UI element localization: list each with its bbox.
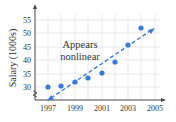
point-2000 — [85, 75, 90, 80]
annotation: Appears nonlinear — [60, 39, 100, 62]
x-tick-2005: 2005 — [147, 104, 163, 113]
y-tick-45: 45 — [23, 43, 31, 52]
y-axis-title: Salary (1000s) — [7, 29, 19, 88]
y-tick-50: 50 — [23, 29, 31, 38]
point-1998 — [58, 83, 63, 88]
point-2003 — [125, 42, 130, 47]
x-tick-1999: 1999 — [67, 104, 83, 113]
y-tick-55: 55 — [23, 16, 31, 25]
y-tick-35: 35 — [23, 70, 31, 79]
y-axis-arrow-icon — [33, 4, 37, 9]
point-2002 — [112, 59, 117, 64]
point-2004 — [138, 25, 143, 30]
x-tick-1997: 1997 — [40, 104, 56, 113]
axis-break-icon — [33, 91, 37, 97]
point-2001 — [99, 70, 104, 75]
annotation-line-1: Appears — [63, 39, 98, 50]
x-tick-2003: 2003 — [120, 104, 136, 113]
x-tick-2001: 2001 — [94, 104, 110, 113]
y-tick-40: 40 — [23, 56, 31, 65]
x-axis-arrow-icon — [161, 98, 166, 102]
salary-scatter-chart: 55 50 45 40 35 30 1997 1999 2001 2003 20… — [0, 0, 176, 122]
point-1997 — [45, 84, 50, 89]
y-tick-labels: 55 50 45 40 35 30 — [23, 16, 31, 92]
x-tick-labels: 1997 1999 2001 2003 2005 — [40, 104, 163, 113]
y-tick-30: 30 — [23, 83, 31, 92]
point-1999 — [72, 79, 77, 84]
annotation-line-2: nonlinear — [60, 51, 100, 62]
